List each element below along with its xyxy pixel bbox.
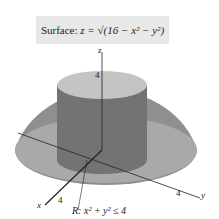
y-tick-4: 4 bbox=[176, 188, 181, 198]
z-axis-label: z bbox=[98, 45, 102, 55]
y-axis-label: y bbox=[201, 190, 205, 200]
x-tick-4: 4 bbox=[58, 195, 63, 205]
x-axis-label: x bbox=[37, 200, 41, 210]
z-tick-4: 4 bbox=[95, 70, 100, 80]
region-label: R: x² + y² ≤ 4 bbox=[72, 205, 126, 216]
hemisphere-diagram bbox=[0, 0, 219, 219]
